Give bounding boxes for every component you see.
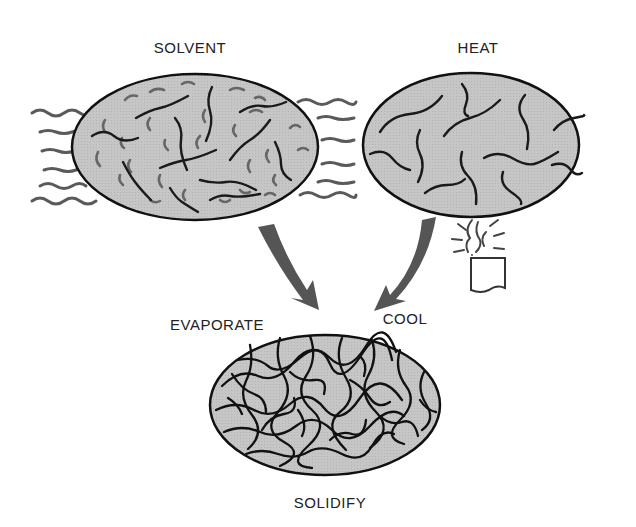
diagram-canvas — [0, 0, 636, 527]
candle-icon — [452, 220, 505, 292]
arrow-cool-icon — [374, 217, 436, 311]
edge-label-cool: COOL — [383, 310, 428, 327]
node-label-solvent: SOLVENT — [154, 39, 226, 56]
heat-ellipse — [363, 73, 584, 217]
edge-label-evaporate: EVAPORATE — [170, 316, 264, 333]
solidify-ellipse — [210, 332, 440, 475]
node-label-solidify: SOLIDIFY — [294, 494, 366, 511]
solvent-ellipse — [72, 74, 318, 220]
arrow-evaporate-icon — [258, 224, 319, 310]
node-label-heat: HEAT — [458, 39, 499, 56]
